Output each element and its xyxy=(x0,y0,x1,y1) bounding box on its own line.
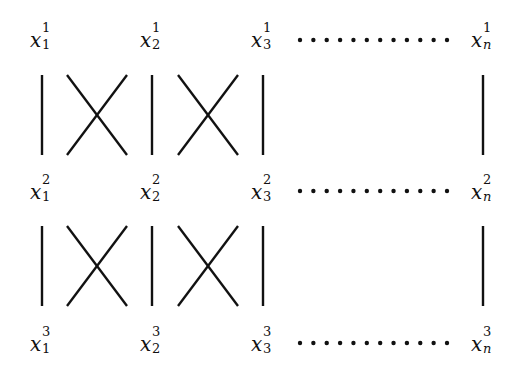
diagram-canvas xyxy=(0,0,524,379)
ellipsis-dots xyxy=(298,38,449,345)
